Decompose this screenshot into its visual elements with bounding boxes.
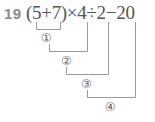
bracket-step-2	[50, 22, 88, 52]
bracket-step-4	[88, 22, 136, 98]
step-label-4: ④	[105, 101, 116, 113]
bracket-step-1	[37, 22, 61, 30]
step-label-2: ②	[61, 55, 72, 67]
order-of-operations-brackets	[0, 0, 155, 122]
step-label-1: ①	[41, 32, 52, 44]
step-label-3: ③	[81, 78, 92, 90]
